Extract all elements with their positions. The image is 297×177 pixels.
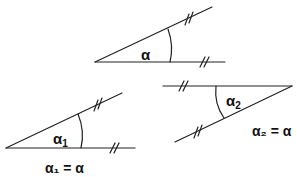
angle-arc <box>216 86 224 118</box>
angle-copy-1 <box>6 93 135 153</box>
angle-label-alpha-1: α1 <box>53 131 68 149</box>
angle-arc <box>168 29 172 62</box>
angle-original <box>95 7 225 67</box>
angle-arc <box>78 114 82 148</box>
angle-label-alpha-2: α2 <box>226 93 241 111</box>
equality-alpha-2: α₂ = α <box>252 124 291 138</box>
equality-alpha-1: α₁ = α <box>45 161 84 175</box>
angle-label-alpha: α <box>141 47 150 62</box>
angle-diagram <box>0 0 297 177</box>
ray-slanted <box>95 7 212 62</box>
